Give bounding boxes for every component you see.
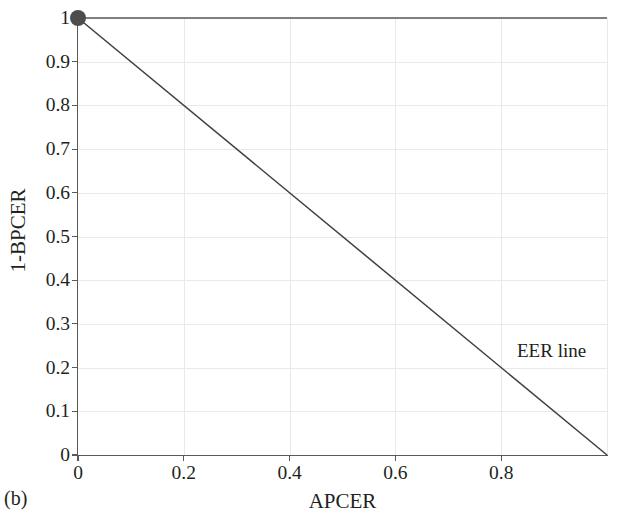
y-axis-title: 1-BPCER — [8, 141, 29, 321]
y-tick-label: 0.1 — [10, 401, 70, 421]
y-axis-tick-labels: 00.10.20.30.40.50.60.70.80.91 — [0, 18, 625, 455]
x-tick-label: 0.6 — [360, 463, 430, 483]
x-tick-label: 0.2 — [149, 463, 219, 483]
subfigure-label: (b) — [4, 487, 27, 510]
y-tick-label: 0.8 — [10, 95, 70, 115]
x-axis-title: APCER — [78, 489, 607, 513]
x-tick-label: 0.8 — [466, 463, 536, 483]
x-axis-tick-labels: 00.20.40.60.8 — [78, 463, 607, 489]
x-tick-mark — [77, 455, 78, 461]
y-tick-label: 0.2 — [10, 358, 70, 378]
y-tick-label: 0.9 — [10, 52, 70, 72]
x-tick-mark — [395, 455, 396, 461]
x-tick-label: 0 — [43, 463, 113, 483]
x-tick-mark — [501, 455, 502, 461]
x-tick-mark — [183, 455, 184, 461]
eer-line-annotation: EER line — [517, 340, 586, 361]
figure-panel: 00.10.20.30.40.50.60.70.80.91 00.20.40.6… — [0, 0, 625, 527]
y-tick-label: 0 — [10, 445, 70, 465]
x-tick-label: 0.4 — [255, 463, 325, 483]
x-tick-mark — [289, 455, 290, 461]
y-tick-label: 1 — [10, 8, 70, 28]
